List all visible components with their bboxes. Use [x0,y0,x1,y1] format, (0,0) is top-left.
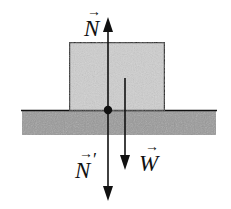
normal-force-label: N → [83,4,101,41]
contact-point-dot [104,106,112,114]
prime-mark: ′ [93,150,97,170]
vector-arrow-icon: → [79,146,93,161]
svg-text:N: N [83,16,101,41]
ground [21,110,217,135]
vector-arrow-icon: → [145,139,159,154]
vector-arrow-icon: → [87,4,101,19]
svg-text:N: N [74,158,92,183]
free-body-diagram: N → N ′ → W → [0,0,231,209]
weight-label: W → [139,139,160,176]
svg-text:W: W [139,151,160,176]
block [70,43,165,111]
reaction-force-label: N ′ → [74,146,97,183]
